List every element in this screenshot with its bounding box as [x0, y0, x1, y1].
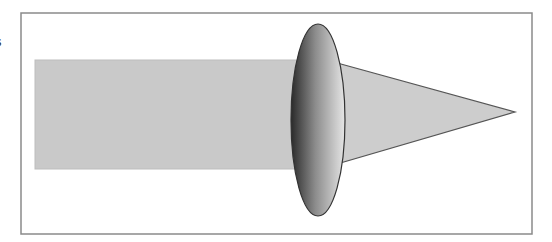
converging-light-cone [330, 61, 515, 166]
lens-diagram [0, 0, 552, 242]
convex-lens [291, 24, 345, 216]
incoming-light-beam [35, 60, 325, 169]
